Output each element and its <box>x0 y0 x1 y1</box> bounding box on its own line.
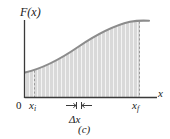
figure-caption: (c) <box>78 124 90 135</box>
tick-label-x-final-subscript: f <box>137 104 139 113</box>
x-axis-label: x <box>158 88 163 99</box>
work-area-under-curve-figure <box>0 0 170 139</box>
origin-label: 0 <box>16 100 22 111</box>
delta-x-measure <box>66 102 92 109</box>
area-strips <box>25 15 141 98</box>
y-axis-label: F(x) <box>20 6 41 18</box>
tick-label-x-initial: xi <box>29 100 36 113</box>
tick-label-x-final: xf <box>132 100 139 113</box>
figure-container: F(x) x 0 xi xf Δx (c) <box>0 0 170 139</box>
tick-label-x-initial-subscript: i <box>34 104 36 113</box>
